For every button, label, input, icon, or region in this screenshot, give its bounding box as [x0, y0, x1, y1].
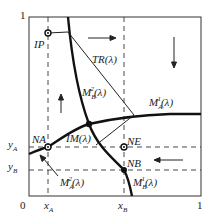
ma-curve: [29, 114, 201, 154]
label-ma1: MA1(λ): [149, 96, 173, 111]
y-tick-1: 1: [20, 10, 26, 21]
y-tick-yA: yA: [8, 139, 17, 153]
label-mb2: MB2(λ): [82, 86, 106, 101]
x-tick-1: 1: [197, 200, 203, 211]
plot-frame: [29, 17, 201, 196]
label-mb1: MB1(λ): [133, 176, 157, 191]
x-tick-xB: xB: [118, 200, 127, 214]
label-ip: IP: [34, 39, 44, 50]
phase-diagram: [0, 0, 216, 222]
label-nb: NB: [127, 158, 141, 169]
x-tick-0: 0: [20, 200, 26, 211]
label-ma2: MA2(λ): [60, 176, 84, 191]
label-na: NA: [32, 134, 46, 145]
im-point: [86, 121, 92, 127]
label-ne: NE: [127, 136, 141, 147]
y-tick-yB: yB: [8, 161, 17, 175]
label-im: IM(λ): [66, 133, 91, 144]
ma2-pointer: [43, 158, 58, 176]
x-tick-xA: xA: [44, 200, 53, 214]
label-tr: TR(λ): [92, 54, 117, 65]
